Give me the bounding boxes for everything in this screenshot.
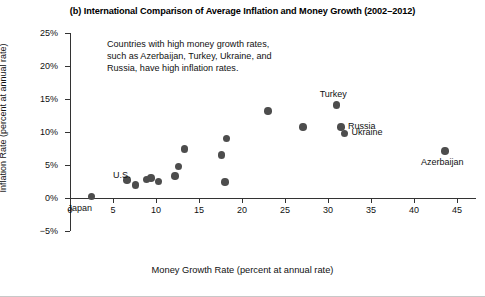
data-point [175, 163, 183, 171]
y-tick-label: 10% [40, 127, 58, 137]
x-tick [113, 198, 114, 203]
data-point [223, 135, 231, 143]
data-point [155, 178, 163, 186]
x-tick-label: 45 [452, 205, 462, 215]
y-tick: 5% [65, 165, 70, 166]
y-tick-label: 15% [40, 94, 58, 104]
x-axis-title: Money Growth Rate (percent at annual rat… [0, 265, 485, 275]
data-point [181, 145, 189, 153]
y-tick-label: 5% [45, 160, 58, 170]
x-tick [156, 198, 157, 203]
data-point [171, 172, 179, 180]
x-tick-label: 25 [280, 205, 290, 215]
y-tick: 10% [65, 132, 70, 133]
x-tick-label: 40 [409, 205, 419, 215]
y-tick-label: 0% [45, 193, 58, 203]
x-tick [328, 198, 329, 203]
y-tick-label: 20% [40, 61, 58, 71]
data-point [221, 178, 229, 186]
y-tick: 20% [65, 66, 70, 67]
data-point [147, 174, 155, 182]
x-tick [457, 198, 458, 203]
x-tick-label: 10 [151, 205, 161, 215]
x-tick [242, 198, 243, 203]
data-point-label: Turkey [320, 89, 347, 99]
x-tick-label: 5 [110, 205, 115, 215]
data-point-label: Azerbaijan [421, 157, 464, 167]
x-tick [285, 198, 286, 203]
data-point [341, 130, 349, 138]
y-tick: 15% [65, 99, 70, 100]
x-tick [371, 198, 372, 203]
data-point [441, 147, 449, 155]
data-point-label: Japan [68, 203, 93, 213]
x-tick-label: 20 [237, 205, 247, 215]
y-tick-label: −5% [40, 226, 58, 236]
data-point [88, 193, 96, 201]
x-tick [199, 198, 200, 203]
data-point [132, 181, 140, 189]
y-tick: −5% [65, 231, 70, 232]
x-tick [414, 198, 415, 203]
x-tick-label: 35 [366, 205, 376, 215]
y-tick: 25% [65, 33, 70, 34]
data-point-label: Ukraine [351, 127, 382, 137]
chart-title: (b) International Comparison of Average … [0, 6, 485, 16]
y-tick-label: 25% [40, 28, 58, 38]
figure-panel: (b) International Comparison of Average … [0, 0, 485, 297]
x-tick-label: 30 [323, 205, 333, 215]
plot-area: −5%0%5%10%15%20%25% 051015202530354045 J… [70, 33, 476, 231]
x-tick-label: 15 [194, 205, 204, 215]
y-axis-title: Inflation Rate (percent at annual rate) [0, 0, 12, 238]
data-point [333, 101, 341, 109]
data-point [218, 151, 226, 159]
series-callout-label: U.S. [113, 170, 131, 180]
data-point [299, 123, 307, 131]
data-point [264, 107, 272, 115]
